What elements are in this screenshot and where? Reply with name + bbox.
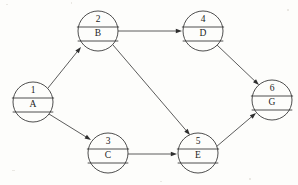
node-activity-label-1: A — [30, 99, 37, 109]
edge-2-to-4 — [118, 29, 182, 33]
node-id-label-3: 3 — [106, 136, 111, 146]
edge-1-to-3 — [49, 114, 91, 140]
node-6[interactable]: 6G — [251, 80, 293, 120]
node-id-label-2: 2 — [96, 14, 101, 24]
edge-line — [48, 51, 78, 88]
edge-line — [49, 114, 87, 137]
network-diagram: 1A2B3C4D5E6G — [0, 0, 298, 185]
edge-line — [217, 45, 255, 82]
arrow-head — [171, 152, 177, 156]
node-activity-label-6: G — [269, 97, 276, 107]
node-id-label-1: 1 — [31, 85, 36, 95]
node-5[interactable]: 5E — [177, 133, 219, 173]
edge-2-to-5 — [113, 45, 190, 135]
edge-3-to-5 — [128, 152, 177, 156]
node-id-label-5: 5 — [196, 136, 201, 146]
edge-5-to-6 — [216, 113, 256, 147]
node-4[interactable]: 4D — [182, 11, 224, 51]
nodes-layer: 1A2B3C4D5E6G — [12, 11, 293, 173]
node-activity-label-4: D — [200, 28, 207, 38]
node-activity-label-2: B — [95, 28, 101, 38]
edge-1-to-2 — [48, 47, 81, 88]
arrow-head — [85, 135, 91, 140]
diagram-canvas: 1A2B3C4D5E6G — [0, 0, 298, 185]
node-id-label-4: 4 — [201, 14, 206, 24]
node-3[interactable]: 3C — [87, 133, 129, 173]
edge-line — [216, 116, 252, 147]
edges-layer — [48, 29, 259, 156]
node-1[interactable]: 1A — [12, 82, 54, 122]
arrow-head — [176, 29, 182, 33]
edge-4-to-6 — [217, 45, 259, 85]
node-id-label-6: 6 — [270, 83, 275, 93]
node-activity-label-3: C — [105, 150, 111, 160]
node-activity-label-5: E — [195, 150, 201, 160]
node-2[interactable]: 2B — [77, 11, 119, 51]
edge-line — [113, 45, 187, 131]
